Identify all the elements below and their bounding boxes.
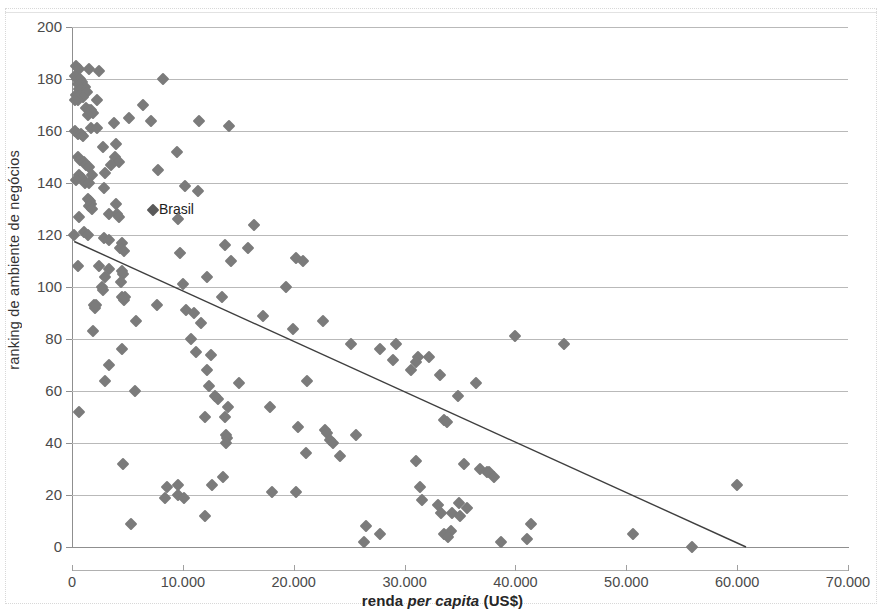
x-tick-axis-line: [72, 570, 849, 571]
y-tick-label: 200: [0, 18, 62, 35]
y-tick-mark: [66, 443, 72, 444]
y-tick-mark: [66, 27, 72, 28]
x-tick-mark: [294, 565, 295, 571]
x-tick-label: 40.000: [493, 574, 537, 590]
y-tick-label: 120: [0, 226, 62, 243]
chart-figure: ranking de ambiente de negócios renda pe…: [0, 0, 885, 616]
x-tick-mark: [848, 565, 849, 571]
x-tick-label: 10.000: [161, 574, 205, 590]
y-tick-label: 100: [0, 278, 62, 295]
y-tick-mark: [66, 547, 72, 548]
y-tick-label: 40: [0, 434, 62, 451]
y-tick-mark: [66, 391, 72, 392]
y-tick-mark: [66, 287, 72, 288]
x-tick-label: 60.000: [715, 574, 759, 590]
y-tick-label: 0: [0, 538, 62, 555]
x-tick-mark: [737, 565, 738, 571]
gridline-y: [72, 27, 848, 28]
annotation-label-brasil: Brasil: [159, 201, 194, 217]
gridline-y: [72, 131, 848, 132]
x-tick-label: 50.000: [604, 574, 648, 590]
gridline-y: [72, 287, 848, 288]
x-tick-mark: [183, 565, 184, 571]
x-axis-title: renda per capita (US$): [0, 592, 885, 609]
gridline-y: [72, 547, 848, 548]
gridline-y: [72, 235, 848, 236]
plot-area: [72, 27, 848, 547]
y-tick-mark: [66, 183, 72, 184]
x-tick-mark: [72, 565, 73, 571]
gridline-y: [72, 79, 848, 80]
y-tick-label: 180: [0, 70, 62, 87]
y-tick-label: 20: [0, 486, 62, 503]
x-tick-label: 30.000: [382, 574, 426, 590]
x-tick-label: 0: [68, 574, 76, 590]
y-tick-label: 140: [0, 174, 62, 191]
x-tick-label: 70.000: [826, 574, 870, 590]
y-tick-mark: [66, 495, 72, 496]
gridline-y: [72, 443, 848, 444]
x-tick-mark: [626, 565, 627, 571]
x-tick-label: 20.000: [272, 574, 316, 590]
y-tick-label: 160: [0, 122, 62, 139]
y-tick-label: 60: [0, 382, 62, 399]
x-axis-title-italic: per capita: [407, 592, 479, 609]
y-tick-mark: [66, 339, 72, 340]
x-tick-mark: [405, 565, 406, 571]
y-tick-label: 80: [0, 330, 62, 347]
x-axis-title-tail: (US$): [479, 592, 523, 609]
page-frame-top-rule: [5, 12, 877, 13]
x-axis-title-plain: renda: [362, 592, 408, 609]
x-tick-mark: [515, 565, 516, 571]
